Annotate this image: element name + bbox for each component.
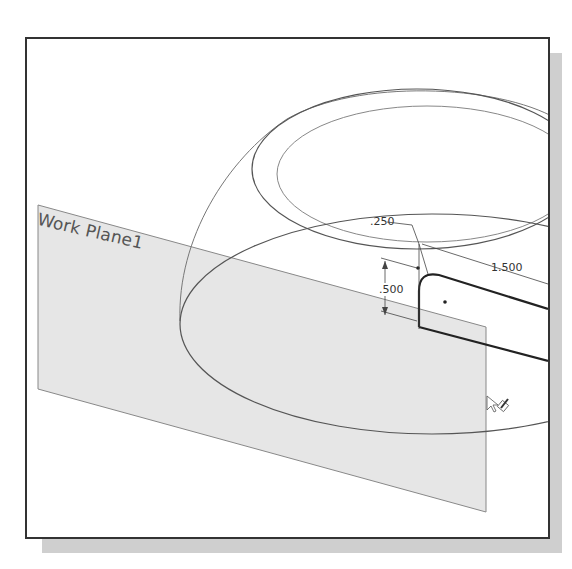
dimension-line-1500	[422, 244, 548, 284]
model-canvas[interactable]	[27, 39, 548, 537]
dimension-fillet-radius[interactable]: .250	[370, 215, 395, 228]
dimension-arrow-icon	[382, 261, 388, 269]
graphics-viewport[interactable]: Work Plane1 .250 1.500 .500	[25, 37, 550, 539]
dimension-height[interactable]: .500	[379, 283, 404, 296]
sketch-center-point[interactable]	[443, 300, 447, 304]
top-rim-outer	[252, 89, 548, 249]
pointer-with-sketch-pencil-icon	[487, 396, 509, 412]
top-rim-inner	[277, 106, 548, 242]
viewport-shadow-right	[548, 53, 562, 553]
dimension-length[interactable]: 1.500	[491, 261, 523, 274]
viewport-shadow-bottom	[42, 537, 562, 553]
